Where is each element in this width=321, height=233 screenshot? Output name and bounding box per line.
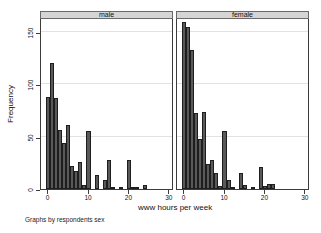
plot-area-male	[40, 19, 173, 190]
y-tick	[36, 85, 40, 86]
x-tick-label: 10	[220, 194, 227, 201]
y-tick-label: 100	[27, 80, 34, 91]
histogram-bar	[271, 184, 275, 189]
y-tick	[36, 33, 40, 34]
histogram-bar	[119, 187, 123, 189]
histogram-bar	[107, 160, 111, 189]
x-tick-label: 0	[46, 194, 50, 201]
histogram-bar	[111, 187, 115, 189]
y-tick-label: 150	[27, 28, 34, 39]
x-tick-label: 30	[301, 194, 308, 201]
histogram-bar	[127, 160, 131, 189]
x-tick-label: 0	[182, 194, 186, 201]
panel-header-male: male	[40, 11, 173, 19]
x-axis-title: www hours per week	[138, 203, 212, 212]
histogram-bar	[143, 185, 147, 189]
y-tick-label: 50	[27, 134, 34, 141]
x-tick-label: 10	[84, 194, 91, 201]
panel-title-male: male	[99, 11, 114, 18]
plot-area-female	[176, 19, 309, 190]
gridline-y-150	[177, 31, 308, 32]
y-tick	[36, 190, 40, 191]
panel-female: female 0102030	[176, 11, 309, 190]
y-tick	[36, 138, 40, 139]
histogram-bar	[231, 187, 235, 189]
gridline-y-100	[177, 83, 308, 84]
histogram-bar	[135, 187, 139, 189]
gridline-y-100	[41, 83, 172, 84]
panel-male: male 0102030	[40, 11, 173, 190]
figure-caption: Graphs by respondents sex	[25, 216, 105, 223]
x-tick-label: 30	[165, 194, 172, 201]
x-tick-label: 20	[125, 194, 132, 201]
x-tick-label: 20	[261, 194, 268, 201]
histogram-bar	[86, 131, 90, 189]
histogram-bar	[243, 185, 247, 189]
y-axis-title: Frequency	[6, 85, 15, 123]
panel-header-female: female	[176, 11, 309, 19]
gridline-y-150	[41, 31, 172, 32]
histogram-by-panel-figure: Frequency male 0102030 female 0102030 ww…	[0, 0, 321, 233]
panel-title-female: female	[232, 11, 253, 18]
histogram-bar	[95, 175, 99, 189]
histogram-bar	[251, 187, 255, 189]
y-tick-label: 0	[27, 188, 34, 192]
